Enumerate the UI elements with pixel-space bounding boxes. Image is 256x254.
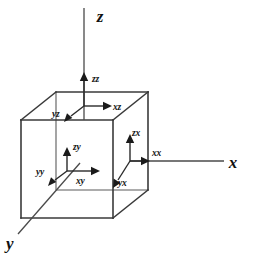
component-yz-line [71, 106, 84, 116]
component-xy-arrowhead [91, 167, 100, 175]
cube-edge-bottom-right-diagonal [113, 190, 148, 218]
stress-cube-diagram: z x y zz xz yz [0, 0, 256, 254]
component-zz-arrowhead [80, 72, 88, 81]
component-triad-right: zx xx yx [113, 128, 161, 188]
component-yy-label: yy [35, 167, 45, 177]
component-zy-arrowhead [63, 147, 71, 156]
axis-x-label: x [228, 153, 238, 172]
component-xz-arrowhead [103, 102, 112, 110]
cube-edge-top-left-diagonal [21, 92, 56, 120]
component-yz-label: yz [51, 109, 60, 119]
component-yy-line [55, 171, 67, 180]
component-xx-label: xx [151, 148, 161, 158]
component-triad-front: zy xy yy [35, 142, 100, 186]
axis-z: z [84, 7, 104, 120]
component-yy-arrowhead [48, 177, 56, 186]
component-zx-label: zx [131, 128, 140, 138]
stress-cube-figure: z x y zz xz yz [0, 0, 256, 254]
component-xy-label: xy [75, 176, 85, 186]
component-triad-top: zz xz yz [51, 72, 121, 122]
component-zy-label: zy [72, 142, 81, 152]
axis-y-line [18, 163, 80, 234]
axis-y-label: y [4, 234, 14, 253]
axis-z-label: z [96, 7, 104, 26]
component-zz-label: zz [91, 74, 99, 84]
component-yx-label: yx [117, 178, 127, 188]
component-xz-label: xz [112, 102, 121, 112]
